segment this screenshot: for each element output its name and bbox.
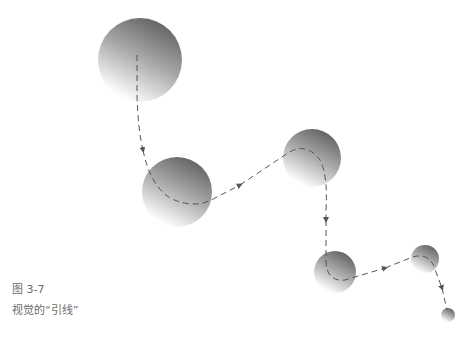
- leading-line-diagram: [0, 0, 475, 347]
- sphere-6: [441, 308, 455, 322]
- sphere-4: [314, 251, 356, 293]
- path-segment-6: [442, 288, 447, 310]
- figure-title: 视觉的“引线”: [12, 304, 78, 318]
- sphere-1: [98, 18, 182, 102]
- sphere-2: [142, 157, 212, 227]
- figure-number: 图 3-7: [12, 283, 44, 297]
- spheres: [98, 18, 455, 322]
- sphere-3: [283, 129, 341, 187]
- sphere-5: [411, 245, 439, 273]
